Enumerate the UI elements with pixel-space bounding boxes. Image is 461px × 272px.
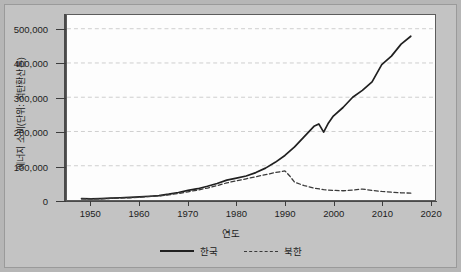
- legend-item-north-korea: 북한: [244, 244, 302, 258]
- x-tick-mark: [236, 201, 237, 206]
- x-tick-mark: [334, 201, 335, 206]
- y-tick-mark: [56, 63, 66, 64]
- legend-item-south-korea: 한국: [160, 244, 218, 258]
- legend-line-solid-icon: [160, 250, 194, 252]
- y-axis-title: 에너지 소비(단위: 석탄환산톤): [14, 24, 27, 204]
- x-tick-label: 2000: [323, 208, 344, 219]
- y-tick-label: 0: [43, 196, 48, 207]
- legend-label: 한국: [200, 244, 218, 258]
- x-tick-mark: [139, 201, 140, 206]
- x-tick-label: 1980: [226, 208, 247, 219]
- legend-label: 북한: [284, 244, 302, 258]
- x-tick-label: 2020: [421, 208, 442, 219]
- x-tick-mark: [90, 201, 91, 206]
- x-tick-mark: [285, 201, 286, 206]
- legend-line-dashed-icon: [244, 251, 278, 252]
- x-tick-label: 1970: [177, 208, 198, 219]
- y-tick-mark: [56, 132, 66, 133]
- x-tick-mark: [431, 201, 432, 206]
- y-tick-mark: [56, 98, 66, 99]
- x-tick-label: 1960: [128, 208, 149, 219]
- chart-canvas: [67, 15, 435, 200]
- x-tick-mark: [188, 201, 189, 206]
- y-tick-mark: [56, 201, 66, 202]
- y-tick-mark: [56, 167, 66, 168]
- y-tick-mark: [56, 29, 66, 30]
- x-tick-label: 2010: [372, 208, 393, 219]
- x-tick-label: 1950: [80, 208, 101, 219]
- x-tick-label: 1990: [275, 208, 296, 219]
- series-line-북한: [82, 171, 411, 199]
- plot-area: [66, 14, 436, 201]
- chart-figure: 0 100,000 200,000 300,000 400,000 500,00…: [0, 0, 461, 272]
- chart-legend: 한국 북한: [0, 244, 461, 258]
- x-tick-mark: [382, 201, 383, 206]
- x-axis-title: 연도: [0, 226, 461, 240]
- x-axis-line: [66, 201, 437, 202]
- series-line-한국: [82, 36, 411, 199]
